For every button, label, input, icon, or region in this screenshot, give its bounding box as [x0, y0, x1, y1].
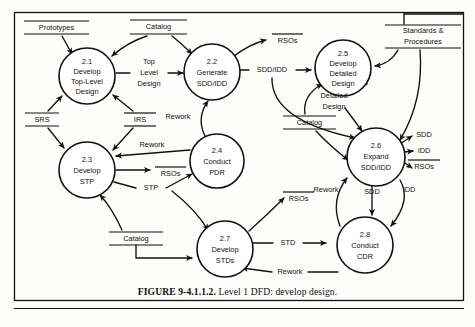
process-name-line: Develop: [73, 67, 100, 76]
flow-label-sdd-out: SDD: [416, 130, 432, 139]
data-store-label: Standards &: [403, 26, 444, 35]
figure-caption-text: Level 1 DFD: develop design.: [218, 286, 337, 297]
process-name-line: Develop: [73, 166, 100, 175]
data-store-irs: IRS: [124, 113, 156, 126]
process-name-line: SDD/IDD: [361, 163, 391, 172]
process-name-line: Develop: [211, 245, 238, 254]
flow-rework-2-4-to-2-3: [116, 150, 190, 156]
process-name-line: Conduct: [351, 241, 379, 250]
flow-prototypes-to-2-1: [62, 36, 72, 54]
data-store-rsos-right: RSOs: [408, 160, 440, 171]
data-store-catalog-mid: Catalog: [283, 116, 336, 129]
process-name-line: Top-Level: [71, 77, 103, 86]
process-id: 2.3: [82, 155, 92, 164]
flow-label-detailed-design: Detailed: [320, 91, 347, 100]
data-store-rsos-mid: RSOs: [155, 167, 186, 178]
data-store-label: IRS: [134, 115, 146, 124]
data-store-rsos-bottom: RSOs: [283, 192, 314, 203]
data-store-srs: SRS: [25, 113, 59, 126]
process-name-line: STDs: [216, 256, 235, 265]
process-name-line: STP: [80, 177, 94, 186]
process-2-6[interactable]: 2.6 Expand SDD/IDD: [347, 128, 405, 186]
data-store-label: Catalog: [123, 234, 148, 243]
process-2-8[interactable]: 2.8 Conduct CDR: [337, 217, 393, 273]
process-2-2[interactable]: 2.2 Generate SDD/IDD: [184, 44, 240, 100]
flow-label-rework-2-4-2-2: Rework: [165, 112, 190, 121]
data-store-label: RSOs: [414, 162, 434, 171]
data-store-catalog-top: Catalog: [130, 20, 187, 34]
page-rule: [14, 308, 464, 309]
figure-page: Prototypes Catalog SRS IRS Standards & P…: [0, 0, 475, 327]
process-name-line: SDD/IDD: [197, 79, 227, 88]
flow-stp-stub: [114, 182, 136, 188]
flow-irs-to-2-3: [113, 128, 133, 150]
flow-label-rework-2-8-2-7: Rework: [277, 267, 302, 276]
data-store-label: RSOs: [278, 36, 298, 45]
flow-label-idd-out: IDD: [418, 146, 431, 155]
flow-catalog-to-2-7: [136, 245, 192, 258]
flow-standards-to-2-5: [375, 50, 398, 66]
flow-label-idd-2-6-2-8: IDD: [403, 185, 416, 194]
process-2-1[interactable]: 2.1 Develop Top-Level Design: [59, 48, 115, 104]
data-store-label: Catalog: [146, 22, 171, 31]
data-store-standards-procedures: Standards & Procedures: [385, 25, 461, 48]
flow-label-rework-2-8-2-6: Rework: [313, 185, 338, 194]
process-id: 2.4: [212, 146, 222, 155]
process-name-line: CDR: [357, 252, 373, 261]
data-store-label: SRS: [34, 115, 49, 124]
process-name-line: Detailed: [329, 69, 356, 78]
process-id: 2.5: [338, 49, 348, 58]
process-name-line: PDR: [209, 168, 225, 177]
process-id: 2.7: [220, 234, 230, 243]
flow-detailed-design-to-2-6: [345, 108, 362, 131]
process-id: 2.1: [82, 57, 92, 66]
process-id: 2.6: [371, 141, 381, 150]
flow-label-stp: STP: [144, 183, 158, 192]
data-store-label: Procedures: [404, 37, 442, 46]
process-2-4[interactable]: 2.4 Conduct PDR: [190, 134, 244, 188]
flow-2-2-to-rsos: [234, 40, 266, 56]
data-store-label: RSOs: [289, 194, 309, 203]
flow-label-sdd-idd: SDD/IDD: [257, 65, 287, 74]
process-name-line: Conduct: [203, 157, 231, 166]
flow-label-sdd-2-6-2-8: SDD: [364, 187, 380, 196]
flow-srs-to-2-1: [48, 96, 62, 111]
flow-catalog-to-2-1: [112, 36, 147, 56]
data-store-rsos-top: RSOs: [272, 34, 303, 45]
process-name-line: Develop: [329, 59, 356, 68]
flow-label-top-level-design: Design: [137, 79, 160, 88]
data-store-label: Prototypes: [39, 23, 75, 32]
flow-rework-2-8-to-2-7: [242, 268, 272, 272]
process-id: 2.8: [360, 230, 370, 239]
flow-standards-to-2-6: [400, 50, 421, 140]
figure-number: FIGURE 9-4.1.1.2.: [138, 286, 216, 297]
process-name-line: Design: [75, 87, 98, 96]
process-2-3[interactable]: 2.3 Develop STP: [59, 142, 115, 198]
flow-label-detailed-design: Design: [322, 102, 345, 111]
flow-stp-to-2-7: [172, 191, 208, 230]
flow-catalog-to-2-3: [100, 195, 122, 230]
flow-catalog-to-2-2: [172, 36, 192, 54]
flow-2-7-to-rsos: [249, 198, 284, 231]
process-name-line: Design: [331, 79, 354, 88]
flow-label-rework-2-4-2-3: Rework: [139, 140, 164, 149]
data-store-label: RSOs: [161, 169, 181, 178]
flow-irs-to-2-1: [113, 95, 133, 111]
data-store-prototypes: Prototypes: [24, 21, 89, 34]
flow-srs-to-2-3: [48, 128, 64, 148]
process-id: 2.2: [207, 57, 217, 66]
flow-label-top-level-design: Top: [143, 57, 155, 66]
flow-label-std: STD: [281, 238, 296, 247]
flow-catalog-to-2-5: [305, 84, 322, 114]
flow-rework-2-4-to-2-2: [201, 101, 208, 136]
process-name-line: Generate: [197, 68, 228, 77]
process-2-5[interactable]: 2.5 Develop Detailed Design: [315, 40, 371, 96]
process-2-7[interactable]: 2.7 Develop STDs: [197, 221, 253, 277]
process-name-line: Expand: [363, 152, 388, 161]
figure-caption: FIGURE 9-4.1.1.2. Level 1 DFD: develop d…: [0, 286, 475, 297]
dfd-diagram: Prototypes Catalog SRS IRS Standards & P…: [0, 0, 475, 327]
flow-label-top-level-design: Level: [140, 68, 158, 77]
data-store-catalog-bottom: Catalog: [109, 232, 163, 245]
